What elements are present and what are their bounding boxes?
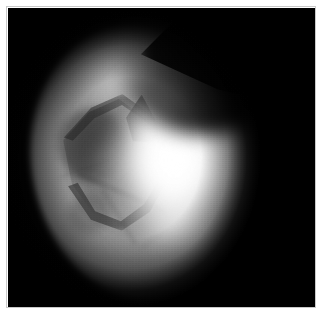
bright-lobe-region <box>78 49 273 289</box>
tissue-seam-line <box>60 159 110 178</box>
dark-speckle-patch <box>67 192 112 236</box>
dark-shadow-band-region <box>114 8 306 142</box>
dark-peak-region <box>123 93 167 146</box>
lower-glow-region <box>110 172 249 293</box>
screenshot-root <box>0 0 326 320</box>
polygon-interior-patch <box>77 123 162 211</box>
dark-polygon-rim <box>51 90 186 236</box>
tissue-seam-line <box>78 173 164 212</box>
upper-pale-band-region <box>60 15 189 135</box>
dark-polygon-region <box>53 92 182 232</box>
tissue-seam-line <box>101 188 137 244</box>
specular-highlight-core <box>114 83 235 242</box>
endoscopic-image-canvas <box>8 8 315 307</box>
bottom-margin-strip <box>0 308 326 320</box>
dark-lobe-left-region <box>56 106 128 183</box>
tissue-field-region <box>18 11 274 307</box>
dark-wedge-region <box>137 8 264 110</box>
tissue-seam-line <box>141 203 197 249</box>
tissue-field-group <box>12 8 286 307</box>
